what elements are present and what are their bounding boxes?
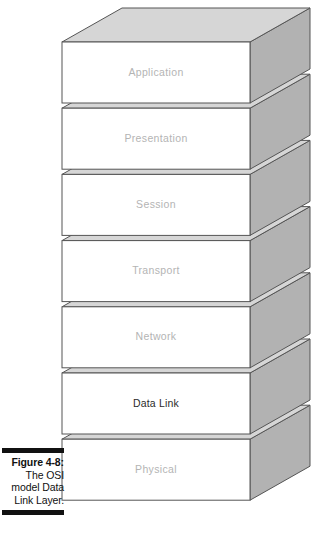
caption-line-3: Link Layer. [2,494,64,507]
slab-front-face [62,373,250,434]
figure-osi-data-link-layer: PhysicalData LinkNetworkTransportSession… [0,0,321,547]
caption-line-2: model Data [2,481,64,494]
slab-front-face [62,108,250,169]
caption-figure-number: Figure 4-8: [2,456,64,469]
caption-line-1: The OSI [2,469,64,482]
caption-text: Figure 4-8: The OSI model Data Link Laye… [2,453,64,507]
slab-front-face [62,439,250,500]
slab-front-face [62,307,250,368]
slab-front-face [62,241,250,302]
osi-layer-slab [62,8,310,103]
slab-front-face [62,42,250,103]
slab-front-face [62,174,250,235]
caption-rule-bottom [2,510,64,515]
figure-caption: Figure 4-8: The OSI model Data Link Laye… [2,448,64,515]
